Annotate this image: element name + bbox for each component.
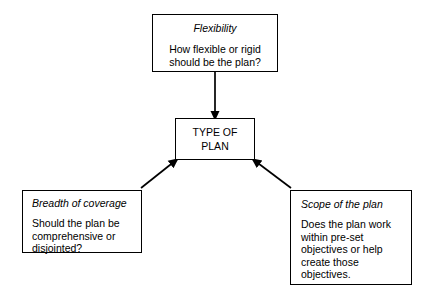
node-type-of-plan-body-line: TYPE OF — [193, 125, 238, 139]
node-scope-of-the-plan-body-line: create those — [301, 256, 411, 269]
node-breadth-of-coverage: Breadth of coverage Should the plan be c… — [22, 190, 142, 253]
arrow-scope-to-type-of-plan — [253, 159, 292, 188]
node-flexibility-body-line: How flexible or rigid — [153, 43, 277, 56]
node-flexibility-body: How flexible or rigid should be the plan… — [153, 43, 277, 68]
node-flexibility-body-line: should be the plan? — [153, 56, 277, 69]
node-scope-of-the-plan-body-line: objectives or help — [301, 243, 411, 256]
flowchart-canvas: Flexibility How flexible or rigid should… — [0, 0, 426, 302]
node-breadth-of-coverage-body-line: comprehensive or — [32, 230, 141, 243]
node-breadth-of-coverage-body-line: disjointed? — [32, 242, 141, 255]
node-scope-of-the-plan-body-line: Does the plan work — [301, 218, 411, 231]
node-type-of-plan-body: TYPE OF PLAN — [193, 125, 238, 153]
node-type-of-plan-body-line: PLAN — [193, 139, 238, 153]
node-type-of-plan: TYPE OF PLAN — [175, 118, 255, 160]
node-scope-of-the-plan-body-line: within pre-set — [301, 231, 411, 244]
node-scope-of-the-plan-body-line: objectives. — [301, 268, 411, 281]
node-breadth-of-coverage-body-line: Should the plan be — [32, 217, 141, 230]
node-breadth-of-coverage-body: Should the plan be comprehensive or disj… — [32, 217, 141, 255]
arrow-breadth-to-type-of-plan — [141, 159, 178, 188]
node-flexibility-heading: Flexibility — [153, 22, 277, 35]
node-scope-of-the-plan-heading: Scope of the plan — [301, 198, 411, 211]
node-breadth-of-coverage-heading: Breadth of coverage — [32, 197, 141, 210]
node-scope-of-the-plan: Scope of the plan Does the plan work wit… — [290, 190, 412, 285]
node-flexibility: Flexibility How flexible or rigid should… — [152, 14, 278, 72]
node-scope-of-the-plan-body: Does the plan work within pre-set object… — [301, 218, 411, 281]
